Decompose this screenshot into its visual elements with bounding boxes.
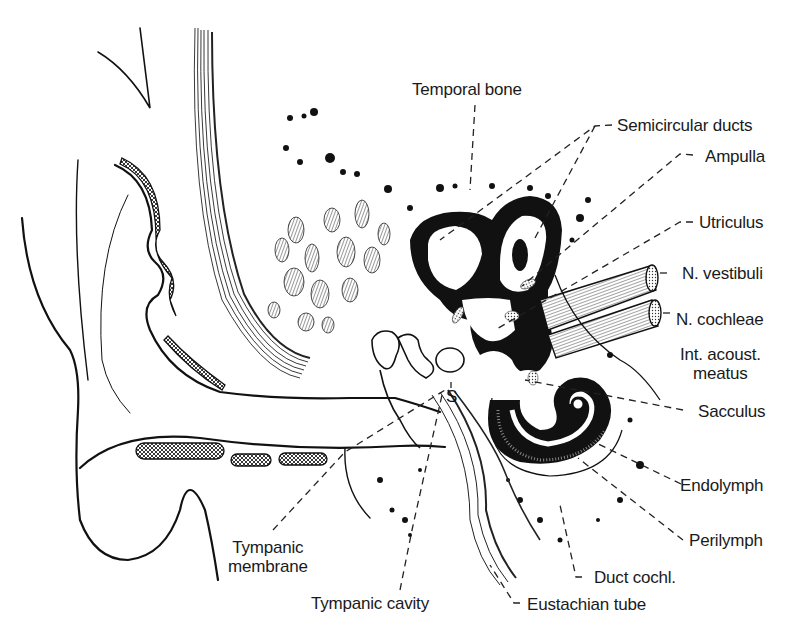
nerves [540,265,661,400]
stapes-marker: S [446,387,457,406]
skull-wall [194,28,310,378]
label-int-acoust-meatus: Int. acoust. meatus [680,345,761,383]
label-duct-cochl: Duct cochl. [594,568,676,587]
leader-lines [273,105,693,603]
label-n-vestibuli: N. vestibuli [682,264,763,283]
label-endolymph: Endolymph [680,476,763,495]
label-perilymph: Perilymph [689,531,763,550]
label-tympanic-membrane: Tympanic membrane [228,538,308,576]
label-sacculus: Sacculus [698,402,765,421]
label-eustachian-tube: Eustachian tube [527,595,646,614]
mastoid-cells [268,200,390,333]
label-ampulla: Ampulla [705,147,765,166]
cochlea [488,378,611,464]
label-utriculus: Utriculus [699,213,763,232]
label-tympanic-cavity: Tympanic cavity [311,594,429,613]
outer-ear [22,28,445,580]
label-n-cochleae: N. cochleae [676,310,764,329]
label-temporal-bone: Temporal bone [412,80,522,99]
label-semicircular-ducts: Semicircular ducts [617,116,752,135]
